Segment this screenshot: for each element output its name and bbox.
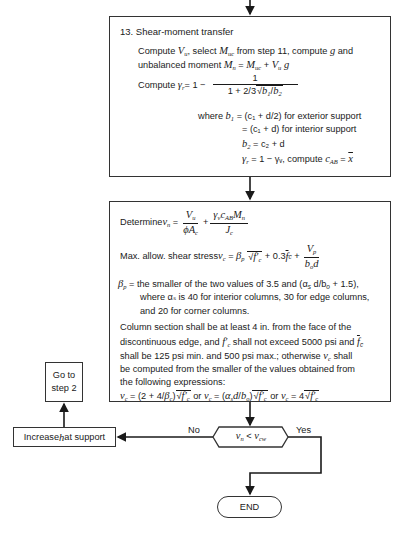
determine-vn-formula: Determine vn = VuϕAc + γvcABMnJc (120, 210, 250, 236)
column-section-line3: shall be 125 psi min. and 500 psi max.; … (120, 351, 352, 363)
alpha-s-line: where αₛ is 40 for interior columns, 30 … (140, 293, 369, 302)
max-shear-formula: Max. allow. shear stress vc = βp √f′c + … (120, 244, 323, 270)
step13-line2: unbalanced moment Mn = Muc + Vu g (138, 60, 289, 72)
step13-line1: Compute Vu, select Muc from step 11, com… (138, 46, 353, 58)
shear-check-box: Determine vn = VuϕAc + γvcABMnJc Max. al… (109, 201, 391, 402)
goto-step2-box: Go to step 2 (45, 362, 83, 402)
step13-gamma-r: γr = 1 − γᵥ, compute cAB = x (242, 154, 353, 166)
column-section-line2: discontinuous edge, and f′c shall not ex… (120, 337, 363, 349)
step13-b1-exterior: where b1 = (c₁ + d/2) for exterior suppo… (198, 111, 361, 123)
yes-label: Yes (296, 426, 311, 435)
decision-condition: vn < vcw (222, 431, 280, 443)
column-section-line4: be computed from the smaller of the valu… (120, 365, 355, 374)
vc-expressions: vc = (2 + 4/βc)√f′c or vc = (αsd/bo)√f′c… (120, 391, 319, 403)
no-label: No (188, 426, 200, 435)
step13-gamma-formula: Compute γr = 1 − 11 + 2/3√b1/b2 (138, 74, 300, 98)
step13-box: 13. Shear-moment transfer Compute Vu, se… (109, 16, 391, 177)
step13-b2: b2 = c₂ + d (242, 139, 285, 151)
beta-p-line: βp = the smaller of the two values of 3.… (118, 279, 359, 291)
step13-title: 13. Shear-moment transfer (120, 27, 234, 37)
step13-b1-interior: = (c₁ + d) for interior support (242, 125, 356, 134)
end-terminator: END (217, 496, 282, 518)
corner-columns-line: and 20 for corner columns. (140, 307, 249, 316)
column-section-line5: the following expressions: (120, 378, 225, 387)
column-section-line1: Column section shall be at least 4 in. f… (120, 323, 351, 332)
increase-h-box: Increase h at support (13, 427, 116, 447)
